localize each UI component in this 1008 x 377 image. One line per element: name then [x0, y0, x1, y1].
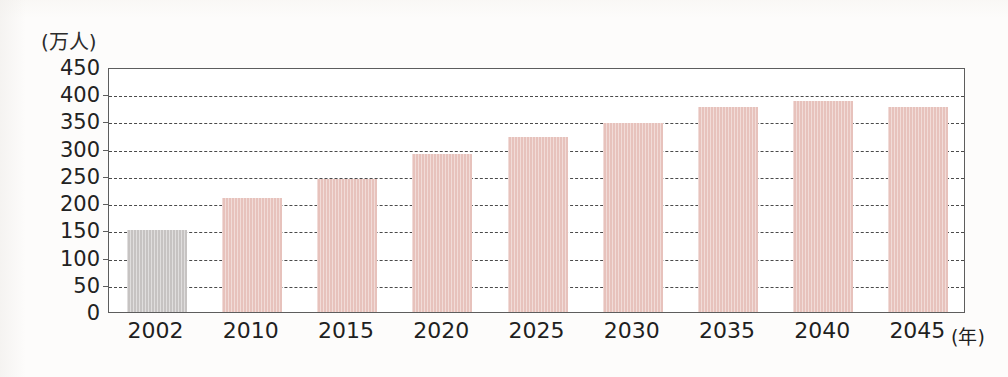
x-axis-tick-labels: 200220102015202020252030203520402045 — [108, 318, 965, 358]
bar — [222, 198, 282, 312]
x-axis-tick-label: 2035 — [699, 318, 755, 343]
x-axis-tick-label: 2002 — [128, 318, 184, 343]
gridline — [109, 96, 964, 97]
x-axis-unit-label: (年) — [951, 322, 985, 349]
x-axis-tick-label: 2010 — [223, 318, 279, 343]
x-axis-tick-label: 2020 — [413, 318, 469, 343]
bar — [603, 123, 663, 312]
y-axis-tick-label: 400 — [8, 83, 108, 107]
x-axis-tick-label: 2015 — [318, 318, 374, 343]
y-axis-tick-label: 250 — [8, 165, 108, 189]
bar — [793, 101, 853, 312]
y-axis-tick-label: 50 — [8, 274, 108, 298]
bar — [412, 154, 472, 312]
bar — [888, 107, 948, 312]
x-axis-tick-label: 2040 — [794, 318, 850, 343]
bar — [508, 137, 568, 312]
y-axis-tick-label: 200 — [8, 192, 108, 216]
y-axis-tick-label: 150 — [8, 219, 108, 243]
plot-area — [108, 68, 965, 313]
y-axis-tick-labels: 050100150200250300350400450 — [0, 68, 108, 313]
y-axis-tick-label: 450 — [8, 56, 108, 80]
y-axis-tick-label: 100 — [8, 247, 108, 271]
bar — [127, 230, 187, 312]
y-axis-unit-label: (万人) — [41, 26, 97, 55]
y-axis-tick-label: 300 — [8, 138, 108, 162]
x-axis-tick-label: 2045 — [889, 318, 945, 343]
bar — [317, 179, 377, 312]
x-axis-tick-label: 2025 — [509, 318, 565, 343]
y-axis-tick-label: 350 — [8, 110, 108, 134]
y-axis-tick-label: 0 — [8, 301, 108, 325]
x-axis-tick-label: 2030 — [604, 318, 660, 343]
bar — [698, 107, 758, 312]
bar-chart: (万人) 050100150200250300350400450 2002201… — [0, 0, 1008, 377]
